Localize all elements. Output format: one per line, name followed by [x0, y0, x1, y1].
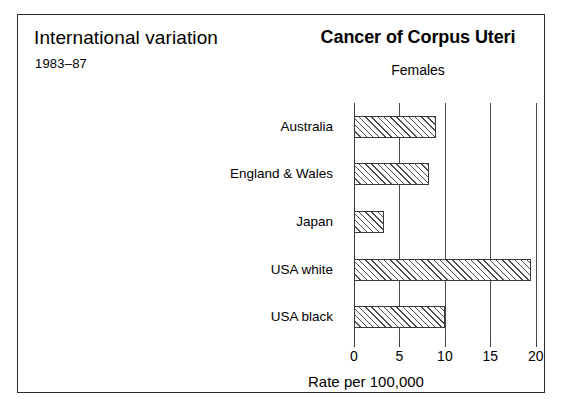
category-label: Japan [73, 214, 333, 229]
bar [354, 259, 531, 281]
bar [354, 116, 436, 138]
tick-label: 5 [384, 348, 414, 364]
gridline-15 [490, 103, 491, 341]
tick-mark [399, 341, 400, 347]
chart-subtitle: Females [294, 62, 542, 78]
bar [354, 306, 445, 328]
tick-mark [536, 341, 537, 347]
bar [354, 211, 384, 233]
plot-area [354, 103, 554, 341]
category-label: USA black [73, 309, 333, 324]
tick-label: 0 [339, 348, 369, 364]
chart-title: Cancer of Corpus Uteri [294, 27, 542, 48]
tick-label: 20 [521, 348, 551, 364]
panel-subtitle: 1983–87 [35, 56, 87, 71]
gridline-10 [445, 103, 446, 341]
tick-label: 15 [475, 348, 505, 364]
tick-mark [490, 341, 491, 347]
category-axis-labels: AustraliaEngland & WalesJapanUSA whiteUS… [48, 103, 333, 341]
axis-title: Rate per 100,000 [196, 373, 536, 390]
bar [354, 163, 429, 185]
tick-label: 10 [430, 348, 460, 364]
category-label: Australia [73, 119, 333, 134]
category-label: England & Wales [73, 166, 333, 181]
figure-frame: International variation 1983–87 Cancer o… [17, 14, 545, 393]
panel-title: International variation [34, 27, 218, 49]
gridline-20 [536, 103, 537, 341]
value-axis-ticks: 05101520 [354, 341, 564, 371]
tick-mark [445, 341, 446, 347]
category-label: USA white [73, 262, 333, 277]
tick-mark [354, 341, 355, 347]
